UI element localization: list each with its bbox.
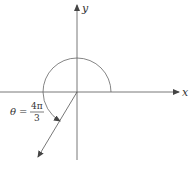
angle-label: θ = 4π 3 (10, 101, 44, 123)
theta-symbol: θ (10, 106, 16, 117)
x-axis-label: x (182, 86, 189, 99)
y-axis-label: y (81, 2, 89, 15)
angle-diagram: x y θ = 4π 3 (0, 0, 190, 171)
fraction-numerator: 4π (31, 101, 43, 111)
fraction-denominator: 3 (34, 113, 40, 123)
terminal-ray (38, 92, 77, 157)
equals-sign: = (19, 106, 27, 117)
